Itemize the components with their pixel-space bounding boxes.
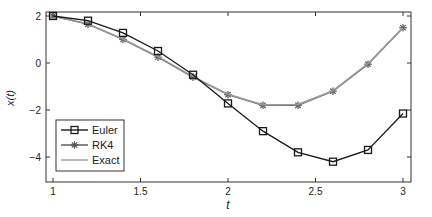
y-tick-label: 0: [35, 58, 41, 69]
x-axis-label: t: [226, 198, 230, 212]
x-tick-label: 3: [400, 186, 406, 197]
x-tick-label: 1.5: [134, 186, 148, 197]
legend: EulerRK4Exact: [56, 120, 124, 171]
legend-label: Euler: [92, 124, 118, 136]
legend-label: RK4: [92, 139, 113, 151]
x-tick-label: 2: [225, 186, 231, 197]
x-tick-label: 2.5: [309, 186, 323, 197]
y-tick-label: −4: [30, 152, 42, 163]
legend-label: Exact: [92, 154, 120, 166]
y-tick-label: 2: [35, 11, 41, 22]
y-tick-label: −2: [30, 105, 42, 116]
y-axis-label: x(t): [4, 90, 16, 107]
x-tick-label: 1: [50, 186, 56, 197]
line-chart: 11.522.53 20−2−4 t x(t) EulerRK4Exact: [0, 0, 432, 217]
asterisk-marker: [71, 141, 79, 149]
